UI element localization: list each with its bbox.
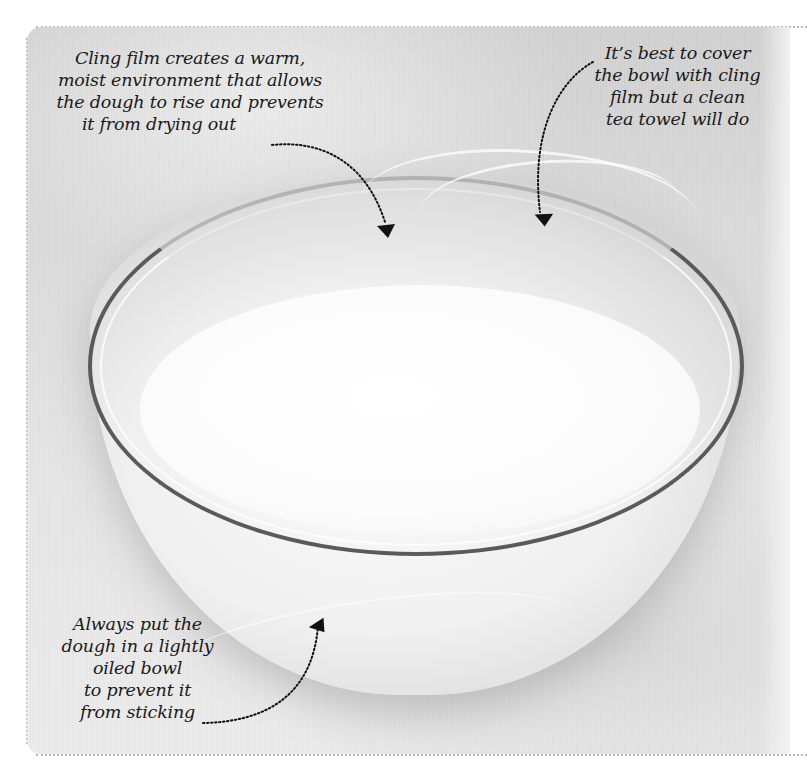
annotation-line: tea towel will do [590,108,765,130]
photo-edge-fade [760,27,790,754]
annotation-line: from sticking [45,701,230,723]
annotation-line: It’s best to cover [590,42,765,64]
annotation-line: Cling film creates a warm, [40,47,340,69]
annotation-line: oiled bowl [45,657,230,679]
annotation-line: film but a clean [590,86,765,108]
annotation-line: it from drying out [40,113,340,135]
annotation-line: dough in a lightly [45,635,230,657]
annotation-oiled-bowl: Always put the dough in a lightly oiled … [45,613,230,723]
annotation-cover-bowl: It’s best to cover the bowl with cling f… [590,42,765,130]
annotation-line: Always put the [45,613,230,635]
annotation-line: the dough to rise and prevents [40,91,340,113]
annotation-cling-film: Cling film creates a warm, moist environ… [40,47,340,135]
frame-bottom-border [36,754,807,756]
annotation-line: to prevent it [45,679,230,701]
annotation-line: moist environment that allows [40,69,340,91]
annotation-line: the bowl with cling [590,64,765,86]
